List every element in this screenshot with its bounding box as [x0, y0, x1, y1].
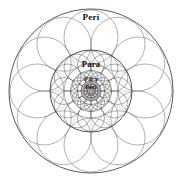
label-core-peri: Peri: [0, 84, 182, 90]
mandala-figure: Peri Para Para Peri: [0, 0, 182, 184]
label-core-para: Para: [0, 76, 182, 82]
mandala-canvas: [0, 0, 182, 184]
label-para: Para: [0, 60, 182, 69]
label-peri: Peri: [0, 13, 182, 22]
